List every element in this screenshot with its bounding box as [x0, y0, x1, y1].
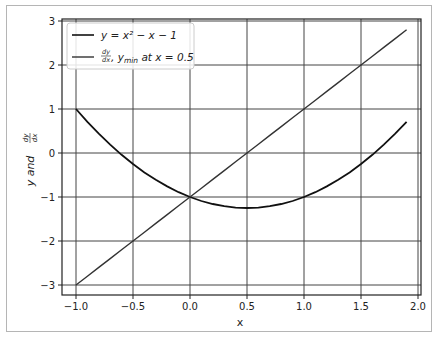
svg-text:dx: dx: [102, 56, 110, 64]
y-tick-label: −2: [40, 236, 55, 247]
x-tick-label: 0.0: [182, 301, 198, 312]
legend: y = x² − x − 1 dy dx , ymin at x = 0.5: [67, 23, 194, 69]
y-tick-label: 3: [49, 16, 55, 27]
series-y-curve: [76, 109, 407, 208]
y-axis-label-frac-num: dy: [22, 133, 30, 142]
x-tick-label: −0.5: [121, 301, 145, 312]
y-tick-label: 2: [49, 60, 55, 71]
x-tick-label: 0.5: [239, 301, 255, 312]
x-tick-label: 1.5: [353, 301, 369, 312]
y-axis-label-main: y and: [24, 155, 37, 188]
x-tick-label: 2.0: [410, 301, 426, 312]
legend-entry-1: y = x² − x − 1: [100, 29, 177, 41]
y-tick-label: 0: [49, 148, 55, 159]
x-tick-label: −1.0: [64, 301, 88, 312]
line-chart: −1.0−0.50.00.51.01.52.0−3−2−10123 x y an…: [0, 0, 439, 338]
y-tick-label: −3: [40, 280, 55, 291]
x-tick-label: 1.0: [296, 301, 312, 312]
y-axis-label-frac-den: dx: [31, 133, 39, 142]
y-axis-label: y and dy dx: [22, 133, 39, 187]
legend-entry-2: , ymin at x = 0.5: [111, 51, 194, 65]
y-tick-label: 1: [49, 104, 55, 115]
y-tick-label: −1: [40, 192, 55, 203]
x-axis-label: x: [237, 316, 244, 329]
svg-text:dy: dy: [102, 48, 110, 56]
